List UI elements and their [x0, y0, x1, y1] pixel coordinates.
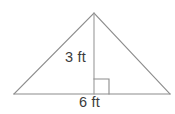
right-angle-marker-icon — [94, 79, 109, 94]
height-label: 3 ft — [65, 50, 86, 65]
triangle-figure: 3 ft 6 ft — [0, 0, 175, 114]
triangle-sides — [14, 13, 170, 94]
base-label: 6 ft — [79, 95, 100, 110]
